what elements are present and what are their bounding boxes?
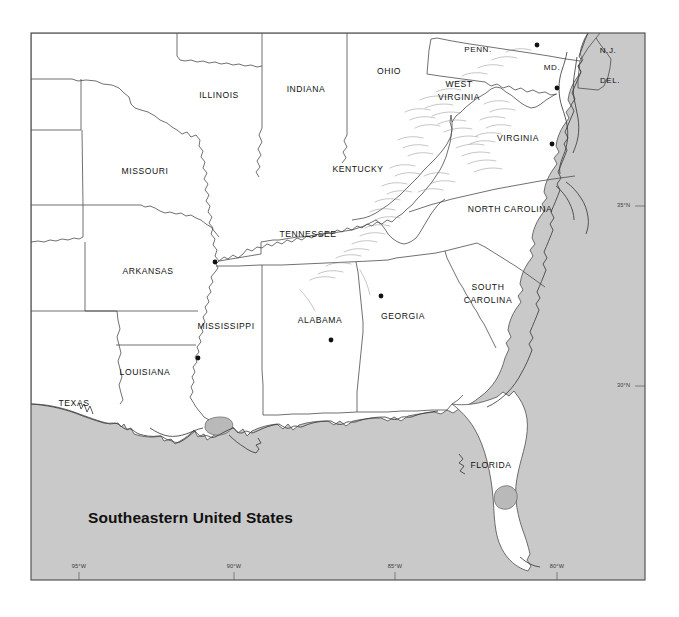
state-label-arkansas: ARKANSAS: [122, 266, 173, 276]
state-label-florida: FLORIDA: [470, 460, 511, 470]
city-dot-birmingham: [329, 338, 334, 343]
state-label-west-virginia-2: VIRGINIA: [438, 92, 480, 102]
state-label-kentucky: KENTUCKY: [332, 164, 383, 174]
state-label-del.: DEL.: [600, 76, 620, 85]
lake-okeechobee: [494, 486, 517, 510]
graticule-label-lon-95w: 95°W: [72, 563, 87, 569]
state-label-penn.: PENN.: [464, 45, 492, 54]
state-label-alabama: ALABAMA: [298, 315, 342, 325]
state-label-virginia: VIRGINIA: [497, 133, 539, 143]
state-label-missouri: MISSOURI: [122, 166, 169, 176]
state-label-georgia: GEORGIA: [381, 311, 425, 321]
state-label-ohio: OHIO: [377, 66, 401, 76]
city-dot-harrisburg: [535, 43, 540, 48]
state-label-south-carolina-2: CAROLINA: [464, 295, 512, 305]
graticule-label-lon-90w: 90°W: [227, 563, 242, 569]
state-label-louisiana: LOUISIANA: [120, 367, 171, 377]
city-dot-atlanta: [379, 294, 384, 299]
state-label-north-carolina: NORTH CAROLINA: [468, 204, 552, 214]
state-label-texas: TEXAS: [59, 398, 90, 408]
state-label-tennessee: TENNESSEE: [279, 229, 336, 239]
map-title: Southeastern United States: [88, 509, 293, 526]
state-label-md.: MD.: [544, 63, 561, 72]
graticule-label-lat-35n: 35°N: [617, 202, 630, 208]
state-label-south-carolina-1: SOUTH: [472, 282, 505, 292]
state-label-illinois: ILLINOIS: [199, 90, 239, 100]
state-label-mississippi: MISSISSIPPI: [197, 321, 254, 331]
city-dot-richmond: [550, 142, 555, 147]
city-dot-jackson: [196, 356, 201, 361]
city-dot-annapolis: [555, 86, 560, 91]
map-figure: ILLINOISINDIANAOHIOPENN.N.J.MD.DEL.WESTV…: [0, 0, 679, 617]
state-label-n.j.: N.J.: [600, 46, 617, 55]
southeastern-us-map: ILLINOISINDIANAOHIOPENN.N.J.MD.DEL.WESTV…: [0, 0, 679, 617]
city-dot-memphis: [213, 260, 218, 265]
state-label-west-virginia-1: WEST: [445, 79, 472, 89]
graticule-label-lon-85w: 85°W: [388, 563, 403, 569]
state-label-indiana: INDIANA: [287, 84, 326, 94]
map-canvas: ILLINOISINDIANAOHIOPENN.N.J.MD.DEL.WESTV…: [31, 33, 645, 580]
graticule-label-lon-80w: 80°W: [550, 563, 565, 569]
graticule-label-lat-30n: 30°N: [617, 382, 630, 388]
